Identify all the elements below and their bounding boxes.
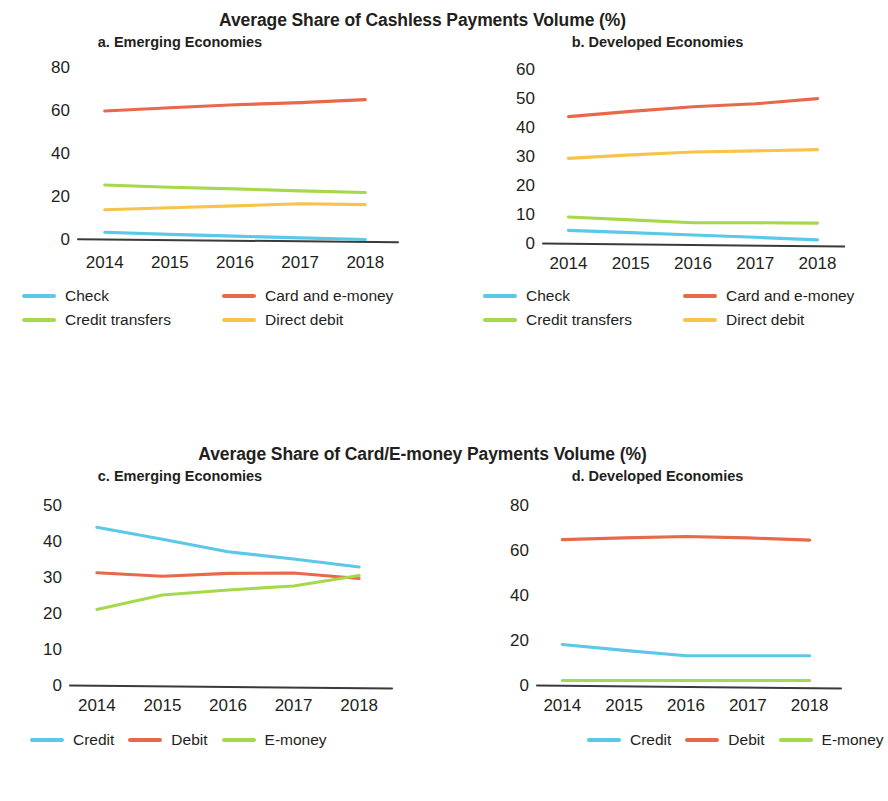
- panel-c: c. Emerging Economies 010203040502014201…: [0, 465, 420, 749]
- legend-swatch-credit: [587, 738, 621, 742]
- legend-item-card-and-e-money[interactable]: Card and e-money: [222, 287, 393, 305]
- x-tick-label: 2017: [729, 696, 767, 715]
- legend-item-check[interactable]: Check: [483, 287, 683, 305]
- legend-label-check: Check: [526, 287, 570, 305]
- x-tick-label: 2014: [550, 254, 588, 273]
- x-tick-label: 2017: [736, 254, 774, 273]
- panel-b-legend: Check Card and e-money Credit transfers …: [483, 284, 888, 332]
- series-line-check: [105, 232, 366, 239]
- x-tick-label: 2017: [281, 253, 319, 272]
- legend-item-debit[interactable]: Debit: [685, 731, 764, 749]
- legend-item-direct-debit[interactable]: Direct debit: [222, 311, 343, 329]
- legend-item-credit[interactable]: Credit: [30, 731, 114, 749]
- x-axis-line: [543, 244, 845, 247]
- series-line-card-and-e-money: [569, 99, 818, 117]
- x-tick-label: 2016: [209, 696, 247, 715]
- legend-item-direct-debit[interactable]: Direct debit: [683, 311, 804, 329]
- series-line-check: [569, 230, 818, 240]
- x-tick-label: 2015: [144, 696, 182, 715]
- legend-row: Credit transfers Direct debit: [22, 308, 442, 332]
- panel-c-legend: Credit Debit E-money: [30, 731, 450, 749]
- panel-a: a. Emerging Economies 020406080201420152…: [0, 31, 420, 332]
- series-line-debit: [562, 537, 809, 541]
- legend-label-check: Check: [65, 287, 109, 305]
- x-tick-label: 2015: [605, 696, 643, 715]
- legend-swatch-check: [22, 294, 56, 298]
- legend-item-credit-transfers[interactable]: Credit transfers: [483, 311, 683, 329]
- x-tick-label: 2016: [674, 254, 712, 273]
- panel-a-svg: 02040608020142015201620172018: [0, 53, 420, 278]
- legend-swatch-credit-transfers: [483, 318, 517, 322]
- panel-a-plot: 02040608020142015201620172018: [0, 53, 420, 278]
- panel-d: d. Developed Economies 02040608020142015…: [425, 465, 845, 749]
- series-line-debit: [97, 573, 359, 579]
- legend-swatch-card-and-e-money: [222, 294, 256, 298]
- legend-item-credit-transfers[interactable]: Credit transfers: [22, 311, 222, 329]
- x-tick-label: 2018: [799, 254, 837, 273]
- legend-swatch-check: [483, 294, 517, 298]
- x-tick-label: 2014: [543, 696, 581, 715]
- x-axis-line: [537, 686, 841, 689]
- panel-b: b. Developed Economies 01020304050602014…: [425, 31, 845, 332]
- legend-swatch-direct-debit: [683, 318, 717, 322]
- y-tick-label: 0: [61, 230, 70, 249]
- legend-item-e-money[interactable]: E-money: [222, 731, 327, 749]
- y-tick-label: 40: [43, 532, 62, 551]
- panel-c-svg: 0102030405020142015201620172018: [0, 487, 420, 727]
- y-tick-label: 80: [51, 58, 70, 77]
- y-tick-label: 50: [516, 89, 535, 108]
- legend-label-debit: Debit: [728, 731, 764, 749]
- y-tick-label: 10: [516, 205, 535, 224]
- panel-d-legend: Credit Debit E-money: [587, 731, 888, 749]
- chart-group-card-emoney: Average Share of Card/E-money Payments V…: [0, 432, 845, 801]
- legend-item-credit[interactable]: Credit: [587, 731, 671, 749]
- panel-b-plot: 010203040506020142015201620172018: [425, 53, 845, 278]
- series-line-card-and-e-money: [105, 100, 366, 111]
- legend-label-card-and-e-money: Card and e-money: [726, 287, 854, 305]
- series-line-credit: [562, 645, 809, 656]
- panel-a-title: a. Emerging Economies: [0, 31, 420, 53]
- y-tick-label: 20: [510, 631, 529, 650]
- legend-swatch-e-money: [779, 738, 813, 742]
- legend-item-card-and-e-money[interactable]: Card and e-money: [683, 287, 854, 305]
- chart-group-cashless: Average Share of Cashless Payments Volum…: [0, 0, 845, 410]
- x-tick-label: 2018: [791, 696, 829, 715]
- legend-swatch-credit: [30, 738, 64, 742]
- y-tick-label: 10: [43, 640, 62, 659]
- group-title-cashless: Average Share of Cashless Payments Volum…: [0, 0, 845, 31]
- series-line-credit-transfers: [569, 217, 818, 223]
- y-tick-label: 60: [510, 541, 529, 560]
- series-line-e-money: [97, 576, 359, 610]
- y-tick-label: 80: [510, 496, 529, 515]
- panel-c-title: c. Emerging Economies: [0, 465, 420, 487]
- series-line-direct-debit: [105, 204, 366, 210]
- legend-item-debit[interactable]: Debit: [128, 731, 207, 749]
- legend-label-e-money: E-money: [822, 731, 884, 749]
- legend-swatch-e-money: [222, 738, 256, 742]
- panel-b-title: b. Developed Economies: [425, 31, 845, 53]
- legend-item-check[interactable]: Check: [22, 287, 222, 305]
- y-tick-label: 0: [53, 676, 62, 695]
- y-tick-label: 30: [516, 147, 535, 166]
- series-line-credit: [97, 527, 359, 567]
- y-tick-label: 60: [51, 101, 70, 120]
- legend-swatch-direct-debit: [222, 318, 256, 322]
- legend-row: Check Card and e-money: [22, 284, 442, 308]
- y-tick-label: 20: [43, 604, 62, 623]
- legend-row: Check Card and e-money: [483, 284, 888, 308]
- y-tick-label: 40: [516, 118, 535, 137]
- legend-swatch-card-and-e-money: [683, 294, 717, 298]
- x-tick-label: 2015: [612, 254, 650, 273]
- panel-c-plot: 0102030405020142015201620172018: [0, 487, 420, 727]
- x-tick-label: 2017: [275, 696, 313, 715]
- group-title-card-emoney: Average Share of Card/E-money Payments V…: [0, 432, 845, 465]
- x-tick-label: 2016: [216, 253, 254, 272]
- x-tick-label: 2015: [151, 253, 189, 272]
- x-tick-label: 2018: [346, 253, 384, 272]
- y-tick-label: 40: [51, 144, 70, 163]
- x-tick-label: 2018: [340, 696, 378, 715]
- legend-swatch-debit: [128, 738, 162, 742]
- legend-label-credit: Credit: [630, 731, 671, 749]
- legend-label-card-and-e-money: Card and e-money: [265, 287, 393, 305]
- legend-item-e-money[interactable]: E-money: [779, 731, 884, 749]
